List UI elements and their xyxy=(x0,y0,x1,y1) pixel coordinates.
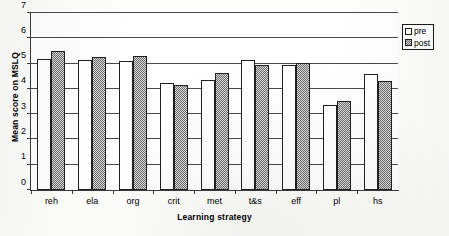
legend-item-pre: pre xyxy=(405,27,430,36)
legend-swatch-post xyxy=(405,39,412,46)
x-tick-mark xyxy=(235,190,236,194)
bar-group xyxy=(357,13,398,190)
bar-pl-pre xyxy=(323,105,337,190)
bar-crit-post xyxy=(174,85,188,190)
bar-hs-post xyxy=(378,81,392,190)
x-tick-label-crit: crit xyxy=(153,196,194,206)
bar-group xyxy=(31,13,72,190)
bar-groups xyxy=(31,13,398,190)
bar-chart-figure: Mean score on MSLQ 01234567 rehelaorgcri… xyxy=(0,0,449,236)
bar-group xyxy=(153,13,194,190)
bar-eff-post xyxy=(296,63,310,190)
x-tick-label-ela: ela xyxy=(72,196,113,206)
x-tick-label-org: org xyxy=(113,196,154,206)
bar-t&s-post xyxy=(255,65,269,190)
x-axis-title: Learning strategy xyxy=(31,212,398,222)
x-tick-mark xyxy=(357,190,358,194)
x-tick-mark xyxy=(72,190,73,194)
bar-crit-pre xyxy=(160,83,174,190)
bar-reh-post xyxy=(51,51,65,190)
x-tick-label-met: met xyxy=(194,196,235,206)
bar-group xyxy=(72,13,113,190)
chart-legend: pre post xyxy=(402,24,434,50)
x-tick-label-eff: eff xyxy=(276,196,317,206)
bar-group xyxy=(194,13,235,190)
y-tick-label: 2 xyxy=(21,126,26,135)
x-axis-tick-labels: rehelaorgcritmett&seffplhs xyxy=(31,196,398,206)
x-tick-label-pl: pl xyxy=(316,196,357,206)
bar-ela-post xyxy=(92,57,106,190)
x-tick-label-t&s: t&s xyxy=(235,196,276,206)
x-axis-line xyxy=(30,190,399,191)
y-tick-label: 6 xyxy=(21,25,26,34)
y-axis-title: Mean score on MSLQ xyxy=(10,30,20,164)
bar-ela-pre xyxy=(78,60,92,190)
bar-group xyxy=(316,13,357,190)
bar-org-post xyxy=(133,56,147,190)
bar-t&s-pre xyxy=(241,60,255,190)
bar-met-pre xyxy=(201,80,215,190)
y-tick-label: 1 xyxy=(21,152,26,161)
y-tick-label: 0 xyxy=(21,177,26,186)
bar-hs-pre xyxy=(364,74,378,190)
bar-group xyxy=(235,13,276,190)
bar-pl-post xyxy=(337,101,351,190)
y-tick-label: 5 xyxy=(21,51,26,60)
x-tick-label-reh: reh xyxy=(31,196,72,206)
legend-label-post: post xyxy=(414,39,430,48)
x-tick-mark xyxy=(316,190,317,194)
bar-org-pre xyxy=(119,61,133,190)
bar-reh-pre xyxy=(37,59,51,190)
legend-label-pre: pre xyxy=(414,27,426,36)
x-tick-mark xyxy=(153,190,154,194)
bar-met-post xyxy=(215,73,229,190)
plot-area: 01234567 xyxy=(31,13,398,190)
bar-group xyxy=(113,13,154,190)
bar-eff-pre xyxy=(282,65,296,190)
legend-item-post: post xyxy=(405,39,430,48)
legend-swatch-pre xyxy=(405,28,412,35)
x-tick-mark xyxy=(276,190,277,194)
x-tick-label-hs: hs xyxy=(357,196,398,206)
y-tick-label: 3 xyxy=(21,101,26,110)
y-tick-label: 7 xyxy=(21,0,26,9)
bar-group xyxy=(276,13,317,190)
x-tick-mark xyxy=(113,190,114,194)
x-tick-mark xyxy=(194,190,195,194)
x-tick-mark xyxy=(31,190,32,194)
y-tick-label: 4 xyxy=(21,76,26,85)
